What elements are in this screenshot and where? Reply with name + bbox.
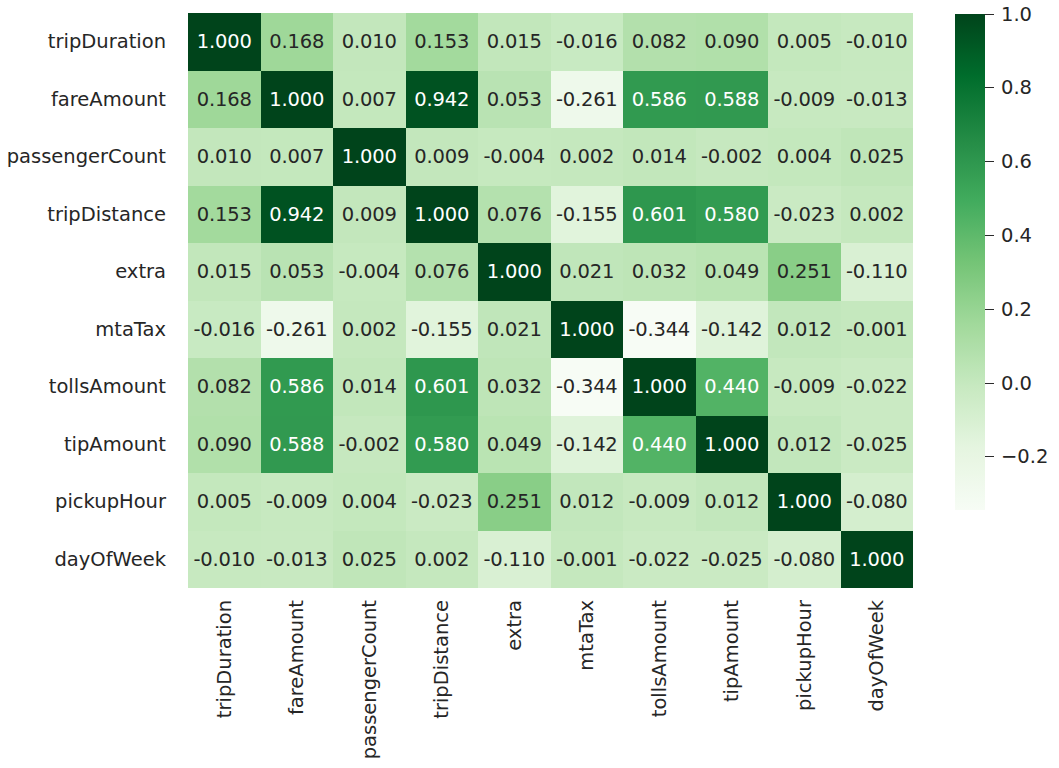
heatmap-cell: 0.168 [188,71,261,129]
colorbar-tick-mark-icon [985,14,994,15]
heatmap-cell: -0.261 [261,301,334,359]
heatmap-cell: 0.009 [406,128,479,186]
colorbar-tick-mark-icon [985,161,994,162]
heatmap-cell: 0.580 [406,416,479,474]
colorbar-gradient [955,14,985,510]
x-axis-tick-label: dayOfWeek [865,600,888,712]
heatmap-cell: 0.053 [261,243,334,301]
x-axis-tick-slot: extra [478,588,551,768]
heatmap-cell: -0.023 [768,186,841,244]
heatmap-cell: 0.049 [478,416,551,474]
x-axis-tick-label: mtaTax [575,600,598,671]
x-axis-tick-labels: tripDurationfareAmountpassengerCounttrip… [188,588,913,768]
heatmap-cell: -0.013 [261,531,334,589]
y-axis-tick-label: passengerCount [0,128,176,186]
x-axis-tick-slot: pickupHour [768,588,841,768]
heatmap-cell: -0.080 [841,473,914,531]
heatmap-cell: -0.009 [261,473,334,531]
heatmap-cell: 0.032 [623,243,696,301]
heatmap-cell: 0.014 [623,128,696,186]
heatmap-cell: 0.588 [261,416,334,474]
heatmap-cell: 0.580 [696,186,769,244]
heatmap-cell: 0.025 [333,531,406,589]
colorbar-tick-label: 0.2 [1001,297,1032,320]
colorbar-tick-label: −0.2 [1001,445,1048,468]
y-axis-tick-label: pickupHour [0,473,176,531]
heatmap-cell: 0.012 [551,473,624,531]
x-axis-tick-label: passengerCount [358,600,381,759]
heatmap-cell: -0.022 [623,531,696,589]
colorbar-tick-label: 0.4 [1001,223,1032,246]
heatmap-cell: -0.004 [478,128,551,186]
heatmap-cell: 0.090 [188,416,261,474]
x-axis-tick-slot: tripDuration [188,588,261,768]
heatmap-cell: 0.049 [696,243,769,301]
colorbar-tick-mark-icon [985,87,994,88]
heatmap-cell: 0.005 [188,473,261,531]
x-axis-tick-slot: dayOfWeek [841,588,914,768]
heatmap-cell: -0.013 [841,71,914,129]
heatmap-cell: 0.002 [333,301,406,359]
colorbar-tick-label: 0.8 [1001,76,1032,99]
colorbar-tick-mark-icon [985,235,994,236]
heatmap-cell: 0.012 [696,473,769,531]
heatmap-cell: -0.023 [406,473,479,531]
heatmap-cell: 1.000 [841,531,914,589]
heatmap-cell: 0.032 [478,358,551,416]
heatmap-cell: -0.004 [333,243,406,301]
heatmap-cell: -0.001 [551,531,624,589]
heatmap-grid: 1.0000.1680.0100.1530.015-0.0160.0820.09… [188,13,913,588]
heatmap-cell: -0.009 [768,358,841,416]
heatmap-cell: 0.586 [623,71,696,129]
heatmap-cell: -0.155 [551,186,624,244]
heatmap-cell: 0.004 [768,128,841,186]
heatmap-cell: -0.344 [623,301,696,359]
heatmap-cell: 0.021 [478,301,551,359]
y-axis-tick-label: extra [0,243,176,301]
heatmap-cell: 1.000 [551,301,624,359]
colorbar: 1.00.80.60.40.20.0−0.2 [955,14,1059,574]
heatmap-plot-area: 1.0000.1680.0100.1530.015-0.0160.0820.09… [188,13,913,588]
heatmap-cell: -0.022 [841,358,914,416]
heatmap-cell: 0.168 [261,13,334,71]
y-axis-tick-label: mtaTax [0,301,176,359]
x-axis-tick-label: tripDuration [213,600,236,718]
y-axis-tick-label: tripDistance [0,186,176,244]
colorbar-tick-label: 0.0 [1001,371,1032,394]
heatmap-cell: 1.000 [623,358,696,416]
heatmap-cell: 0.010 [333,13,406,71]
heatmap-cell: 0.004 [333,473,406,531]
heatmap-cell: 0.076 [406,243,479,301]
x-axis-tick-slot: fareAmount [261,588,334,768]
heatmap-cell: -0.025 [696,531,769,589]
x-axis-tick-slot: passengerCount [333,588,406,768]
heatmap-cell: 0.251 [768,243,841,301]
heatmap-cell: 0.012 [768,301,841,359]
colorbar-tick-mark-icon [985,383,994,384]
heatmap-cell: 1.000 [188,13,261,71]
heatmap-cell: -0.009 [623,473,696,531]
heatmap-cell: 0.090 [696,13,769,71]
heatmap-cell: -0.016 [551,13,624,71]
colorbar-tick-label: 1.0 [1001,2,1032,25]
y-axis-tick-label: fareAmount [0,71,176,129]
x-axis-tick-label: tripDistance [430,600,453,719]
y-axis-tick-label: tollsAmount [0,358,176,416]
heatmap-cell: -0.016 [188,301,261,359]
heatmap-cell: 0.153 [188,186,261,244]
heatmap-cell: 0.601 [623,186,696,244]
heatmap-cell: 0.010 [188,128,261,186]
heatmap-cell: 0.009 [333,186,406,244]
heatmap-cell: 0.082 [623,13,696,71]
heatmap-cell: 0.002 [406,531,479,589]
x-axis-tick-slot: tripDistance [406,588,479,768]
heatmap-cell: -0.110 [478,531,551,589]
heatmap-cell: 0.440 [623,416,696,474]
heatmap-cell: 1.000 [696,416,769,474]
y-axis-tick-label: dayOfWeek [0,531,176,589]
heatmap-cell: -0.142 [551,416,624,474]
heatmap-cell: -0.080 [768,531,841,589]
heatmap-cell: 1.000 [333,128,406,186]
heatmap-cell: 1.000 [261,71,334,129]
heatmap-cell: 0.053 [478,71,551,129]
